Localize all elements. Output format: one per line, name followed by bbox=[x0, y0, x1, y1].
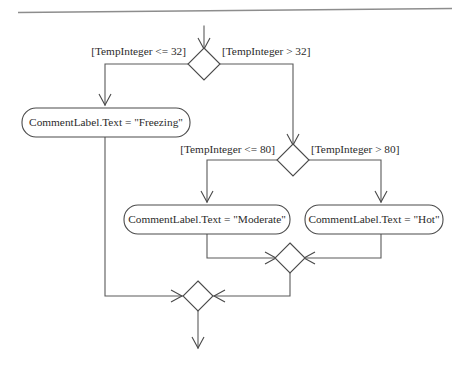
edge-moderate-to-merge-inner bbox=[207, 234, 276, 258]
edge-temp32-false-to-freezing bbox=[105, 64, 188, 105]
decision-diamond-temp-80[interactable] bbox=[277, 144, 309, 176]
guard-label-temp80-true: [TempInteger > 80] bbox=[311, 143, 399, 155]
action-label-freezing: CommentLabel.Text = "Freezing" bbox=[29, 116, 183, 128]
action-node-hot[interactable]: CommentLabel.Text = "Hot" bbox=[305, 205, 443, 234]
guard-label-temp32-false: [TempInteger <= 32] bbox=[91, 45, 186, 57]
diagram-page: [TempInteger <= 32] [TempInteger > 32] [… bbox=[0, 0, 468, 366]
action-node-moderate[interactable]: CommentLabel.Text = "Moderate" bbox=[124, 205, 290, 234]
guard-label-temp80-false: [TempInteger <= 80] bbox=[180, 143, 275, 155]
action-label-hot: CommentLabel.Text = "Hot" bbox=[308, 213, 439, 225]
page-divider-rule bbox=[18, 9, 452, 13]
merge-node-outer[interactable] bbox=[183, 281, 213, 311]
edge-temp80-true-to-hot bbox=[309, 160, 381, 202]
guard-label-temp32-true: [TempInteger > 32] bbox=[222, 45, 310, 57]
decision-diamond-temp-32[interactable] bbox=[188, 48, 220, 80]
decision-node-temp-80[interactable] bbox=[277, 144, 309, 176]
edge-hot-to-merge-inner bbox=[304, 234, 381, 258]
action-label-moderate: CommentLabel.Text = "Moderate" bbox=[128, 213, 286, 225]
edge-temp32-true-to-decision-80 bbox=[220, 64, 293, 145]
activity-diagram-canvas: [TempInteger <= 32] [TempInteger > 32] [… bbox=[0, 0, 468, 366]
edge-merge-inner-to-merge-outer bbox=[214, 273, 290, 296]
action-node-freezing[interactable]: CommentLabel.Text = "Freezing" bbox=[22, 108, 190, 137]
edge-layer bbox=[99, 26, 387, 348]
decision-node-temp-32[interactable] bbox=[188, 48, 220, 80]
merge-node-inner[interactable] bbox=[275, 243, 305, 273]
edge-temp80-false-to-moderate bbox=[207, 160, 277, 202]
